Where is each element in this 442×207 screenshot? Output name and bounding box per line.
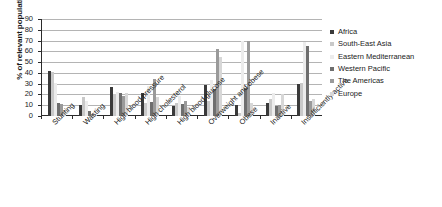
legend-swatch-icon — [330, 42, 334, 46]
legend-item-label: Eastern Mediterranean — [338, 53, 414, 61]
bars-layer — [41, 19, 322, 116]
bar — [94, 115, 97, 116]
legend-item[interactable]: Western Pacific — [330, 63, 442, 75]
y-axis-tick-label: 10 — [25, 101, 33, 109]
legend-item-label: Western Pacific — [338, 65, 390, 73]
y-axis-tick-label: 50 — [25, 58, 33, 66]
x-axis-tick-mark — [228, 116, 229, 119]
bar — [250, 103, 253, 116]
legend-swatch-icon — [330, 67, 334, 71]
chart-legend: AfricaSouth-East AsiaEastern Mediterrane… — [330, 26, 442, 100]
legend-item[interactable]: South-East Asia — [330, 38, 442, 50]
bar-group — [103, 19, 134, 116]
legend-swatch-icon — [330, 55, 334, 59]
y-axis-tick-label: 0 — [29, 112, 33, 120]
legend-item-label: Africa — [338, 28, 357, 36]
legend-item[interactable]: Africa — [330, 26, 442, 38]
bar-group — [72, 19, 103, 116]
legend-item-label: South-East Asia — [338, 40, 391, 48]
legend-item[interactable]: Europe — [330, 87, 442, 99]
x-axis-tick-mark — [166, 116, 167, 119]
bar-group — [228, 19, 259, 116]
y-axis-tick-label: 40 — [25, 69, 33, 77]
bar — [187, 107, 190, 116]
bar-group — [197, 19, 228, 116]
x-axis-tick-mark — [197, 116, 198, 119]
bar-group — [291, 19, 322, 116]
x-axis-tick-mark — [260, 116, 261, 119]
bar-chart: % of relevant population 010203040506070… — [0, 0, 442, 207]
bar-group — [260, 19, 291, 116]
bar — [312, 99, 315, 116]
y-axis-tick-label: 70 — [25, 37, 33, 45]
x-axis-tick-mark — [103, 116, 104, 119]
x-axis-tick-mark — [291, 116, 292, 119]
y-axis-tick-label: 20 — [25, 91, 33, 99]
bar-group — [166, 19, 197, 116]
bar — [63, 110, 66, 116]
legend-item-label: Europe — [338, 90, 362, 98]
bar — [219, 57, 222, 116]
y-axis-tick-label: 80 — [25, 26, 33, 34]
legend-swatch-icon — [330, 79, 334, 83]
y-axis-tick-label: 90 — [25, 15, 33, 23]
y-axis-tick-labels: 0102030405060708090 — [0, 19, 38, 116]
bar — [125, 93, 128, 116]
legend-swatch-icon — [330, 92, 334, 96]
bar — [281, 94, 284, 116]
x-axis-tick-mark — [72, 116, 73, 119]
y-axis-tick-label: 30 — [25, 80, 33, 88]
legend-item[interactable]: The Americas — [330, 75, 442, 87]
bar-group — [41, 19, 72, 116]
legend-swatch-icon — [330, 30, 334, 34]
y-axis-tick-label: 60 — [25, 48, 33, 56]
legend-item-label: The Americas — [338, 77, 384, 85]
bar-group — [135, 19, 166, 116]
legend-item[interactable]: Eastern Mediterranean — [330, 51, 442, 63]
bar — [156, 97, 159, 116]
x-axis-tick-mark — [135, 116, 136, 119]
x-axis-tick-mark — [41, 116, 42, 119]
